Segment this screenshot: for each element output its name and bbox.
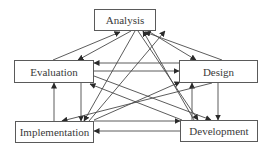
node-design-label: Design	[203, 66, 234, 78]
edge-design-to-analysis	[145, 32, 222, 60]
node-implementation: Implementation	[15, 121, 94, 143]
node-analysis-label: Analysis	[106, 14, 145, 26]
node-implementation-label: Implementation	[20, 126, 90, 138]
edge-analysis-to-evaluation	[78, 31, 131, 60]
node-design: Design	[179, 60, 258, 83]
edge-design-to-implementation	[62, 83, 212, 121]
node-evaluation-label: Evaluation	[30, 66, 78, 78]
node-evaluation: Evaluation	[14, 60, 94, 83]
node-development-label: Development	[189, 125, 248, 137]
node-development: Development	[180, 120, 258, 142]
diagram-canvas: Analysis Evaluation Design Implementatio…	[0, 0, 274, 151]
node-analysis: Analysis	[94, 9, 156, 31]
